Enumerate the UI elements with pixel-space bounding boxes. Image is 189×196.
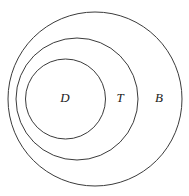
set-label-t: T: [116, 90, 124, 105]
venn-diagram-canvas: D T B: [0, 0, 189, 196]
set-label-d: D: [59, 90, 70, 105]
set-label-b: B: [155, 90, 163, 105]
venn-diagram-container: D T B: [0, 0, 189, 196]
